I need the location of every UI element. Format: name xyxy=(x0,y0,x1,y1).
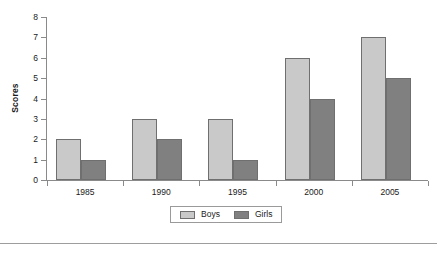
x-axis-tick xyxy=(47,181,48,186)
legend-swatch-girls xyxy=(234,211,249,219)
x-axis-tick-label: 2005 xyxy=(352,188,428,197)
bar-boys-2005 xyxy=(361,37,386,180)
y-axis-tick-label: 1 xyxy=(12,156,38,165)
bar-boys-2000 xyxy=(285,58,310,180)
y-axis-tick-label: 7 xyxy=(12,33,38,42)
x-axis-tick xyxy=(428,181,429,186)
y-axis-tick-label: 5 xyxy=(12,74,38,83)
x-axis-tick-label: 1985 xyxy=(47,188,123,197)
legend-label: Girls xyxy=(255,210,272,219)
bar-chart-figure: Scores 012345678 19851990199520002005 Bo… xyxy=(0,0,437,253)
y-axis-tick-label: 4 xyxy=(12,95,38,104)
x-axis-line xyxy=(47,180,428,181)
y-axis-tick-labels: 012345678 xyxy=(8,0,38,253)
bar-group xyxy=(352,17,428,180)
bar-group xyxy=(276,17,352,180)
bar-girls-2000 xyxy=(310,99,335,181)
chart-legend: BoysGirls xyxy=(170,206,282,223)
legend-item-girls[interactable]: Girls xyxy=(234,210,272,219)
y-axis-tick-label: 8 xyxy=(12,13,38,22)
y-axis-tick-label: 2 xyxy=(12,135,38,144)
bar-girls-2005 xyxy=(386,78,411,180)
bar-boys-1985 xyxy=(56,139,81,180)
y-axis-tick-label: 0 xyxy=(12,176,38,185)
y-axis-tick-label: 3 xyxy=(12,115,38,124)
x-axis-tick xyxy=(123,181,124,186)
x-axis-tick xyxy=(352,181,353,186)
bar-girls-1985 xyxy=(81,160,106,180)
bottom-divider xyxy=(0,243,437,244)
bar-group xyxy=(47,17,123,180)
legend-label: Boys xyxy=(201,210,220,219)
plot-area xyxy=(47,17,428,180)
x-axis-tick-label: 1990 xyxy=(123,188,199,197)
x-axis-tick-label: 1995 xyxy=(199,188,275,197)
bar-boys-1995 xyxy=(208,119,233,180)
x-axis-tick xyxy=(199,181,200,186)
legend-item-boys[interactable]: Boys xyxy=(180,210,220,219)
bar-girls-1995 xyxy=(233,160,258,180)
x-axis-tick xyxy=(276,181,277,186)
bar-girls-1990 xyxy=(157,139,182,180)
bar-group xyxy=(199,17,275,180)
y-axis-tick-label: 6 xyxy=(12,54,38,63)
legend-swatch-boys xyxy=(180,211,195,219)
bar-group xyxy=(123,17,199,180)
bar-boys-1990 xyxy=(132,119,157,180)
x-axis-tick-label: 2000 xyxy=(276,188,352,197)
